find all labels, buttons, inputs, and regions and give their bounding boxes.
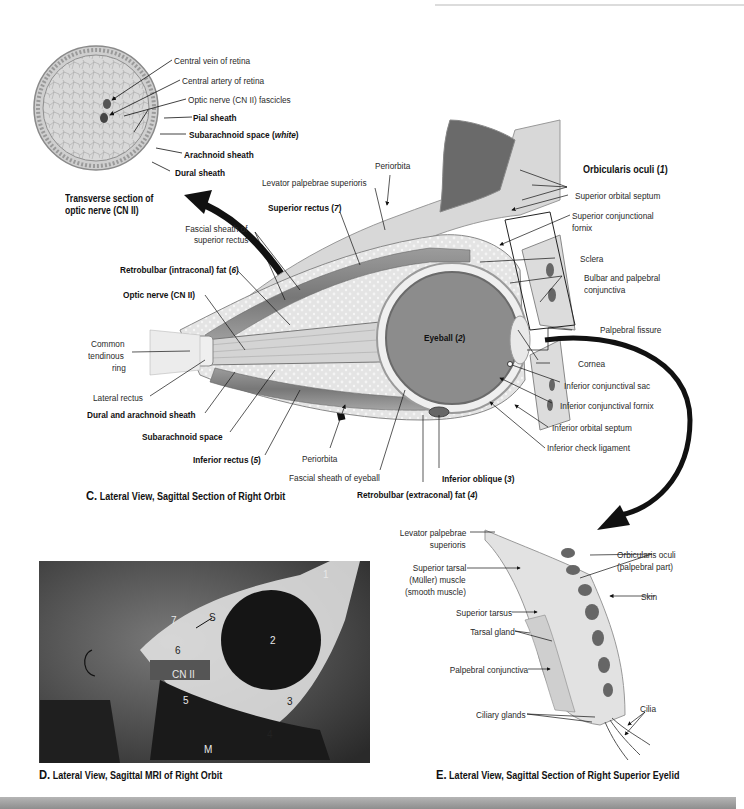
- mri-marker-4: 4: [267, 729, 273, 740]
- caption-transverse-line2: optic nerve (CN II): [65, 205, 139, 216]
- label-common-tendinous-1: Common: [91, 338, 124, 349]
- mri-marker-1: 1: [323, 569, 329, 580]
- label-periorbita-bottom: Periorbita: [302, 453, 337, 464]
- label-text: Retrobulbar (extraconal) fat (: [357, 489, 470, 500]
- label-text: Retrobulbar (intraconal) fat (: [120, 264, 231, 275]
- label-central-artery: Central artery of retina: [182, 75, 264, 86]
- label-num: 7: [334, 202, 339, 213]
- label-text: ): [296, 129, 299, 140]
- label-retrobulbar-extraconal: Retrobulbar (extraconal) fat (4): [357, 489, 478, 500]
- label-num: 1: [660, 163, 665, 175]
- label-periorbita-top: Periorbita: [375, 160, 410, 171]
- label-bulbar-palpebral-1: Bulbar and palpebral: [584, 272, 660, 283]
- label-e-cilia: Cilia: [640, 703, 656, 714]
- page-bottom-edge: [0, 797, 736, 809]
- label-e-sup-tarsal-2: (Müller) muscle: [410, 574, 466, 585]
- caption-panel-c: C. Lateral View, Sagittal Section of Rig…: [86, 488, 285, 503]
- panel-letter: C.: [86, 488, 97, 503]
- label-palpebral-fissure: Palpebral fissure: [600, 324, 661, 335]
- mri-marker-6: 6: [175, 645, 181, 656]
- label-central-vein: Central vein of retina: [174, 55, 250, 66]
- mri-marker-2: 2: [270, 635, 276, 646]
- label-e-sup-tarsal-3: (smooth muscle): [405, 586, 466, 597]
- label-levator: Levator palpebrae superioris: [262, 177, 367, 188]
- label-e-orbicularis-2: (palpebral part): [617, 561, 673, 572]
- label-e-tarsal-gland: Tarsal gland: [471, 626, 515, 637]
- mri-marker-cn2: CN II: [172, 669, 195, 680]
- label-arachnoid-sheath: Arachnoid sheath: [184, 149, 254, 160]
- label-orbicularis-oculi: Orbicularis oculi (1): [583, 164, 668, 175]
- label-num: 5: [254, 454, 259, 465]
- label-subarachnoid-space: Subarachnoid space: [142, 431, 223, 442]
- label-e-sup-tarsal-1: Superior tarsal: [412, 562, 466, 573]
- label-inferior-oblique: Inferior oblique (3): [442, 473, 514, 484]
- label-text: Eyeball (: [424, 332, 458, 343]
- label-fascial-sheath-eyeball: Fascial sheath of eyeball: [289, 472, 380, 483]
- label-superior-conj-fornix-1: Superior conjunctional: [572, 210, 654, 221]
- label-text: Subarachnoid space (: [189, 129, 275, 140]
- mri-marker-s: S: [209, 612, 216, 623]
- mri-image: [39, 561, 370, 763]
- label-e-palpebral-conjunctiva: Palpebral conjunctiva: [450, 664, 528, 675]
- label-retrobulbar-intraconal: Retrobulbar (intraconal) fat (6): [120, 264, 239, 275]
- label-e-orbicularis-1: Orbicularis oculi: [617, 549, 676, 560]
- label-inferior-orbital-septum: Inferior orbital septum: [552, 422, 632, 433]
- label-text: Inferior rectus (: [193, 454, 254, 465]
- caption-panel-d: D. Lateral View, Sagittal MRI of Right O…: [39, 767, 222, 782]
- caption-text: Lateral View, Sagittal Section of Right …: [449, 769, 679, 781]
- mri-marker-7: 7: [171, 615, 177, 626]
- label-italic: white: [275, 129, 296, 140]
- label-inferior-conj-sac: Inferior conjunctival sac: [564, 380, 650, 391]
- panel-letter: D.: [39, 767, 50, 782]
- label-common-tendinous-2: tendinous: [88, 350, 124, 361]
- label-pial-sheath: Pial sheath: [193, 112, 237, 123]
- label-subarachnoid-white: Subarachnoid space (white): [189, 129, 299, 140]
- label-sclera: Sclera: [580, 253, 603, 264]
- label-dural-arachnoid: Dural and arachnoid sheath: [87, 409, 196, 420]
- label-text: Superior rectus (: [268, 202, 334, 213]
- caption-text: Lateral View, Sagittal Section of Right …: [100, 490, 286, 502]
- label-dural-sheath: Dural sheath: [175, 167, 225, 178]
- label-inferior-rectus: Inferior rectus (5): [193, 454, 261, 465]
- label-num: 6: [231, 264, 236, 275]
- label-num: 2: [458, 332, 463, 343]
- mri-marker-3: 3: [287, 696, 293, 707]
- label-e-levator-1: Levator palpebrae: [399, 527, 466, 538]
- label-e-levator-2: superioris: [430, 539, 466, 550]
- optic-nerve-cross-section: [34, 46, 192, 171]
- caption-panel-e: E. Lateral View, Sagittal Section of Rig…: [436, 767, 679, 782]
- label-e-skin: Skin: [641, 591, 657, 602]
- label-cornea: Cornea: [578, 358, 605, 369]
- label-common-tendinous-3: ring: [112, 362, 126, 373]
- label-fascial-sheath-sr-2: superior rectus: [193, 234, 248, 245]
- label-inferior-check-ligament: Inferior check ligament: [547, 442, 630, 453]
- mri-marker-m: M: [204, 744, 212, 755]
- label-bulbar-palpebral-2: conjunctiva: [584, 284, 625, 295]
- label-inferior-conj-fornix: Inferior conjunctival fornix: [560, 400, 654, 411]
- label-fascial-sheath-sr-1: Fascial sheath of: [186, 223, 248, 234]
- label-e-superior-tarsus: Superior tarsus: [456, 607, 512, 618]
- label-optic-nerve: Optic nerve (CN II): [123, 289, 195, 300]
- label-superior-conj-fornix-2: fornix: [572, 222, 592, 233]
- label-text: Orbicularis oculi (: [583, 163, 660, 175]
- label-e-ciliary-glands: Ciliary glands: [476, 709, 526, 720]
- label-superior-orbital-septum: Superior orbital septum: [575, 190, 660, 201]
- label-eyeball: Eyeball (2): [424, 332, 465, 343]
- label-superior-rectus: Superior rectus (7): [268, 202, 341, 213]
- label-lateral-rectus: Lateral rectus: [93, 392, 143, 403]
- caption-transverse-line1: Transverse section of: [65, 193, 153, 204]
- panel-letter: E.: [436, 767, 447, 782]
- label-optic-fascicles: Optic nerve (CN II) fascicles: [188, 94, 291, 105]
- label-num: 4: [470, 489, 475, 500]
- caption-text: Lateral View, Sagittal MRI of Right Orbi…: [53, 769, 223, 781]
- label-text: Inferior oblique (: [442, 473, 507, 484]
- label-num: 3: [507, 473, 512, 484]
- mri-marker-5: 5: [183, 695, 189, 706]
